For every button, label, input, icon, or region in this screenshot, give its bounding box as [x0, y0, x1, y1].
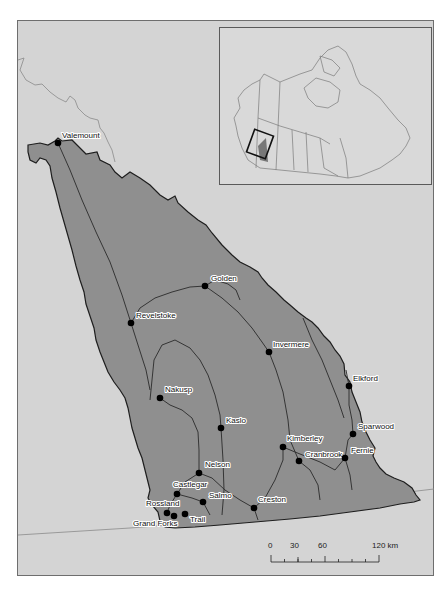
town-label-golden: Golden	[211, 274, 237, 283]
scale-label-0: 0	[268, 541, 273, 550]
scale-bar: 0 30 60 120 km	[268, 541, 399, 562]
town-label-invermere: Invermere	[273, 340, 310, 349]
town-label-nakusp: Nakusp	[165, 385, 193, 394]
town-marker-valemount	[55, 140, 62, 147]
town-label-trail: Trail	[190, 515, 205, 524]
town-marker-kaslo	[218, 425, 225, 432]
town-label-nelson: Nelson	[205, 460, 230, 469]
scale-label-60: 60	[318, 541, 327, 550]
scale-label-120: 120 km	[372, 541, 399, 550]
town-label-valemount: Valemount	[62, 131, 100, 140]
town-label-grand-forks: Grand Forks	[133, 519, 177, 528]
town-marker-cranbrook	[296, 458, 303, 465]
canada-outline	[220, 28, 431, 184]
town-label-kaslo: Kaslo	[226, 416, 247, 425]
town-label-creston: Creston	[258, 495, 286, 504]
town-marker-creston	[251, 505, 258, 512]
town-label-kimberley: Kimberley	[287, 434, 323, 443]
town-label-revelstoke: Revelstoke	[136, 311, 176, 320]
town-label-elkford: Elkford	[353, 374, 378, 383]
town-marker-elkford	[346, 383, 353, 390]
town-marker-castlegar	[174, 491, 181, 498]
town-marker-invermere	[266, 349, 273, 356]
town-marker-golden	[202, 283, 209, 290]
town-marker-rossland	[164, 510, 171, 517]
town-label-castlegar: Castlegar	[173, 480, 208, 489]
town-marker-trail	[182, 511, 189, 518]
town-label-sparwood: Sparwood	[358, 422, 394, 431]
town-marker-nakusp	[157, 395, 164, 402]
town-marker-salmo	[200, 499, 207, 506]
town-marker-kimberley	[280, 444, 287, 451]
town-marker-revelstoke	[128, 320, 135, 327]
town-label-cranbrook: Cranbrook	[305, 450, 343, 459]
inset-locator-map	[219, 27, 432, 185]
town-label-rossland: Rossland	[146, 499, 179, 508]
scale-label-30: 30	[290, 541, 299, 550]
town-marker-sparwood	[350, 431, 357, 438]
town-label-fernie: Fernie	[351, 446, 374, 455]
town-marker-nelson	[196, 470, 203, 477]
basin-polygon	[28, 138, 420, 528]
town-marker-fernie	[342, 455, 349, 462]
town-label-salmo: Salmo	[209, 491, 232, 500]
